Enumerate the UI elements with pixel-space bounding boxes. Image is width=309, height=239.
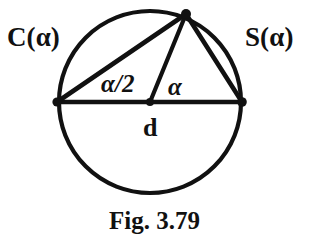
left-vertex-point (52, 97, 61, 106)
sine-chord-label: S(α) (245, 24, 293, 51)
cosine-chord-label: C(α) (7, 24, 60, 51)
figure-container: C(α) S(α) α/2 α d Fig. 3.79 (0, 0, 309, 239)
center-point (146, 98, 154, 106)
inscribed-angle-label: α/2 (101, 71, 135, 96)
central-angle-label: α (168, 74, 182, 99)
figure-caption: Fig. 3.79 (0, 207, 309, 236)
sine-chord-line (186, 14, 242, 102)
right-vertex-point (237, 97, 247, 107)
diameter-label: d (143, 115, 158, 141)
top-vertex-point (181, 9, 191, 19)
